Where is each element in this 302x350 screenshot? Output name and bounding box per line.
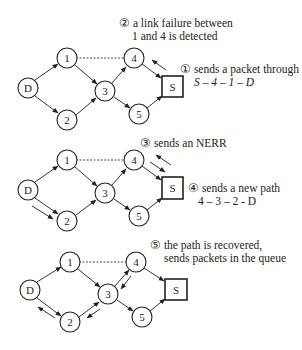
svg-text:1: 1	[67, 256, 73, 268]
packet-arrow-s-4	[152, 60, 166, 70]
svg-text:3: 3	[105, 288, 111, 300]
edge-1-3	[78, 269, 100, 287]
node-4: 4	[124, 150, 144, 170]
node-2: 2	[60, 312, 80, 332]
edge-d-2	[35, 96, 58, 113]
svg-text:2: 2	[64, 215, 70, 227]
nerr-arrow-s-4	[156, 155, 171, 165]
svg-text:S: S	[173, 284, 179, 296]
recovered-arrow-3-2	[87, 309, 100, 318]
step1-annotation-line2: S – 4 – 1 – D	[194, 76, 255, 88]
node-1: 1	[60, 252, 80, 272]
edge-4-s	[144, 268, 164, 281]
step5-annotation-line1: ⑤ the path is recovered,	[150, 239, 262, 252]
panel-3: D 1 2 3 4 5 S ⑤ the path is recovered, s…	[20, 239, 286, 332]
svg-text:4: 4	[131, 52, 137, 64]
step4-annotation-line1: ④ sends a new path	[188, 182, 280, 195]
edge-1-3	[75, 167, 97, 186]
svg-text:5: 5	[136, 108, 142, 120]
node-d: D	[20, 280, 40, 300]
node-4: 4	[124, 48, 144, 68]
node-s: S	[162, 177, 183, 199]
node-3: 3	[95, 183, 115, 203]
edge-4-s	[142, 166, 161, 180]
svg-text:2: 2	[64, 114, 70, 126]
svg-text:1: 1	[64, 154, 70, 166]
node-s: S	[162, 76, 183, 97]
node-s: S	[165, 279, 187, 300]
svg-text:4: 4	[133, 256, 139, 268]
step1-annotation-line1: ① sends a packet through	[180, 63, 299, 76]
step3-annotation: ③ sends an NERR	[140, 137, 227, 149]
node-5: 5	[132, 307, 152, 327]
svg-text:S: S	[169, 81, 175, 93]
node-3: 3	[95, 81, 115, 101]
svg-text:3: 3	[102, 85, 108, 97]
edge-5-s	[147, 198, 162, 210]
svg-text:3: 3	[102, 187, 108, 199]
svg-text:1: 1	[64, 52, 70, 64]
svg-text:5: 5	[136, 210, 142, 222]
edge-d-1	[35, 166, 58, 182]
svg-text:5: 5	[139, 311, 145, 323]
svg-text:4: 4	[131, 154, 137, 166]
edge-d-2	[35, 198, 58, 214]
svg-text:D: D	[24, 82, 32, 94]
edge-1-3	[75, 65, 97, 84]
step2-annotation-line2: 1 and 4 is detected	[132, 30, 218, 42]
edge-3-5	[114, 199, 130, 210]
edge-2-3	[76, 98, 96, 115]
edge-3-4	[115, 270, 129, 286]
edge-3-4	[112, 169, 126, 185]
step4-annotation-line2: 4 – 3 – 2 - D	[198, 195, 256, 207]
svg-text:2: 2	[67, 316, 73, 328]
route-recovery-diagram: D 1 2 3 4 5 S ② a link failure between 1…	[0, 0, 302, 350]
node-4: 4	[126, 252, 146, 272]
node-d: D	[18, 180, 38, 200]
edge-4-s	[142, 64, 161, 78]
edge-3-5	[114, 97, 130, 108]
edge-2-3	[76, 200, 96, 215]
node-3: 3	[98, 284, 118, 304]
recovered-arrow-2-d	[38, 307, 55, 318]
node-5: 5	[129, 206, 149, 226]
edge-3-4	[112, 67, 126, 83]
edge-3-5	[117, 300, 133, 311]
node-1: 1	[57, 48, 77, 68]
new-path-arrow-4-s	[150, 162, 165, 172]
edge-5-s	[147, 96, 162, 108]
edge-2-3	[79, 302, 99, 317]
node-d: D	[18, 78, 38, 98]
panel-1: D 1 2 3 4 5 S ② a link failure between 1…	[18, 17, 299, 130]
edge-d-1	[37, 267, 61, 282]
step5-annotation-line2: sends packets in the queue	[164, 252, 286, 265]
svg-text:D: D	[26, 284, 34, 296]
edge-5-s	[150, 299, 165, 311]
node-2: 2	[57, 211, 77, 231]
edge-d-1	[35, 64, 58, 80]
svg-text:D: D	[24, 184, 32, 196]
svg-text:S: S	[169, 182, 175, 194]
step2-annotation-line1: ② a link failure between	[119, 17, 233, 29]
node-1: 1	[57, 150, 77, 170]
node-2: 2	[57, 110, 77, 130]
panel-2: D 1 2 3 4 5 S ③ sends an NERR ④ sends a …	[18, 137, 280, 231]
node-5: 5	[129, 104, 149, 124]
edge-d-2	[37, 298, 61, 316]
